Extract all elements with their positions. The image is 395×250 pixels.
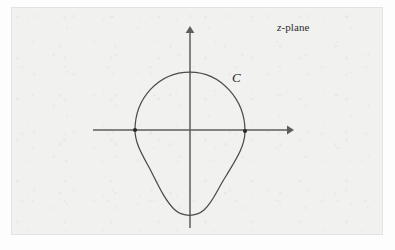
contour-diagram-canvas bbox=[0, 0, 395, 250]
z-plane-label: z-plane bbox=[277, 21, 309, 33]
right-corner-point-marker bbox=[243, 129, 247, 133]
z-plane-label-rest: -plane bbox=[281, 21, 309, 33]
contour-label-c: C bbox=[232, 70, 241, 86]
up-arrow-icon bbox=[186, 26, 195, 33]
right-arrow-icon bbox=[287, 126, 294, 135]
left-corner-point-marker bbox=[133, 128, 137, 132]
figure-root: z-plane C bbox=[0, 0, 395, 250]
